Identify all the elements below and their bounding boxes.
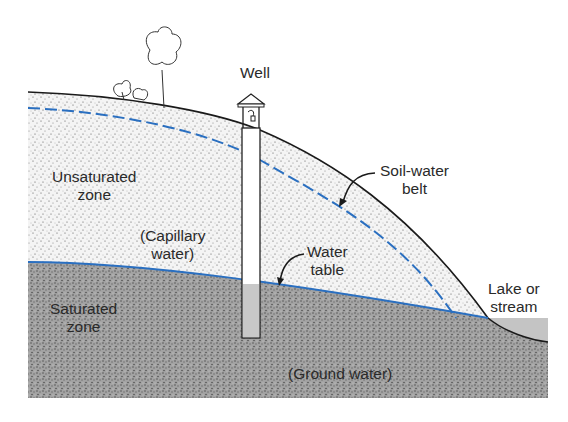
- label-text: zone: [50, 318, 117, 336]
- label-text: Unsaturated: [52, 168, 136, 186]
- label-text: Soil-water: [380, 162, 449, 180]
- label-well: Well: [240, 64, 270, 82]
- tree-icon: [114, 27, 181, 108]
- label-text: Well: [240, 64, 270, 82]
- label-water-table: Water table: [307, 243, 348, 279]
- label-text: belt: [380, 180, 449, 198]
- label-text: stream: [488, 298, 540, 316]
- label-saturated-zone: Saturated zone: [50, 300, 117, 336]
- label-text: table: [307, 261, 348, 279]
- label-text: Lake or: [488, 280, 540, 298]
- label-lake-or-stream: Lake or stream: [488, 280, 540, 316]
- label-ground-water: (Ground water): [288, 365, 392, 383]
- label-text: water): [140, 245, 205, 263]
- label-text: zone: [52, 186, 136, 204]
- label-unsaturated-zone: Unsaturated zone: [52, 168, 136, 204]
- groundwater-diagram: [0, 0, 568, 422]
- label-text: Saturated: [50, 300, 117, 318]
- label-text: (Ground water): [288, 365, 392, 383]
- label-text: Water: [307, 243, 348, 261]
- label-soil-water-belt: Soil-water belt: [380, 162, 449, 198]
- label-text: (Capillary: [140, 227, 205, 245]
- label-capillary-water: (Capillary water): [140, 227, 205, 263]
- well-icon: [238, 94, 264, 338]
